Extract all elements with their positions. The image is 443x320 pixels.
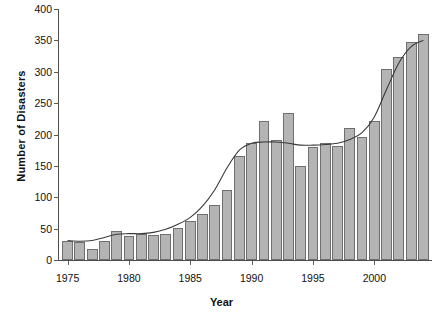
y-tick-label: 250 — [18, 97, 52, 109]
bar — [124, 236, 135, 260]
bar — [209, 205, 220, 260]
bar — [87, 249, 98, 260]
bar — [320, 143, 331, 260]
bar — [295, 166, 306, 260]
y-tick-label: 50 — [18, 223, 52, 235]
bar — [283, 113, 294, 260]
bar — [197, 214, 208, 260]
bar — [406, 42, 417, 260]
y-tick-label: 400 — [18, 3, 52, 15]
y-tick-label: 200 — [18, 129, 52, 141]
bar — [393, 57, 404, 260]
x-tick-label: 1985 — [170, 272, 210, 284]
x-tick-label: 2000 — [354, 272, 394, 284]
bar — [332, 146, 343, 260]
bar — [111, 231, 122, 260]
x-tick-label: 1980 — [109, 272, 149, 284]
bar — [99, 241, 110, 260]
disasters-bar-chart: Number of Disasters Year 050100150200250… — [0, 0, 443, 320]
y-tick-label: 300 — [18, 66, 52, 78]
x-tick-label: 1990 — [232, 272, 272, 284]
bar — [308, 147, 319, 260]
bar — [271, 140, 282, 260]
bar — [357, 137, 368, 260]
bar — [344, 128, 355, 260]
bar — [173, 228, 184, 260]
x-axis-title: Year — [0, 296, 443, 308]
bar — [234, 156, 245, 260]
bar — [160, 234, 171, 260]
x-axis-line — [58, 260, 432, 261]
y-tick-label: 150 — [18, 160, 52, 172]
bar — [74, 242, 85, 260]
bar — [246, 143, 257, 260]
bar — [185, 221, 196, 260]
bar — [222, 190, 233, 260]
y-tick-label: 350 — [18, 34, 52, 46]
x-tick-label: 1975 — [48, 272, 88, 284]
bar — [369, 121, 380, 260]
bars-container — [59, 9, 432, 260]
bar — [136, 234, 147, 260]
y-tick-label: 0 — [18, 254, 52, 266]
bar — [259, 121, 270, 260]
bar — [148, 235, 159, 260]
bar — [418, 34, 429, 260]
bar — [62, 241, 73, 260]
y-tick-label: 100 — [18, 191, 52, 203]
bar — [381, 69, 392, 260]
x-tick-label: 1995 — [293, 272, 333, 284]
